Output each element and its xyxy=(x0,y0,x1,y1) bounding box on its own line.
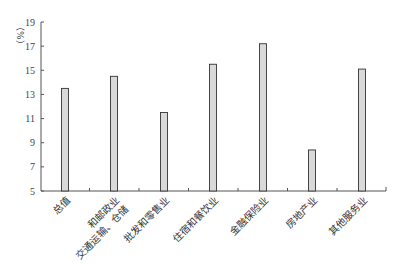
svg-text:其他服务业: 其他服务业 xyxy=(326,194,370,238)
y-tick-label: 13 xyxy=(25,89,35,100)
y-tick-label: 5 xyxy=(30,186,35,197)
bar-1 xyxy=(111,76,118,191)
svg-text:批发和零售业: 批发和零售业 xyxy=(121,194,172,245)
category-label: 金融保险业 xyxy=(227,194,271,238)
svg-text:住宿和餐饮业: 住宿和餐饮业 xyxy=(170,194,221,245)
bar-4 xyxy=(260,44,267,191)
bar-chart: 5791113151719 总值交通运输、仓储和邮政业批发和零售业住宿和餐饮业金… xyxy=(0,0,400,264)
y-unit-label: （%） xyxy=(15,22,25,49)
category-label: 房地产业 xyxy=(283,194,320,231)
y-tick-label: 7 xyxy=(30,161,35,172)
y-tick-label: 19 xyxy=(25,17,35,28)
category-label: 其他服务业 xyxy=(326,194,370,238)
category-label: 批发和零售业 xyxy=(121,194,172,245)
bar-5 xyxy=(309,150,316,191)
bar-0 xyxy=(62,88,69,191)
y-tick-label: 17 xyxy=(25,41,35,52)
bar-6 xyxy=(359,69,366,191)
svg-text:金融保险业: 金融保险业 xyxy=(227,194,271,238)
y-tick-label: 11 xyxy=(25,113,35,124)
y-axis: 5791113151719 xyxy=(25,17,44,197)
svg-text:总值: 总值 xyxy=(50,194,73,217)
bar-2 xyxy=(161,113,168,191)
category-label: 交通运输、仓储和邮政业 xyxy=(63,194,130,261)
category-labels: 总值交通运输、仓储和邮政业批发和零售业住宿和餐饮业金融保险业房地产业其他服务业 xyxy=(50,194,370,261)
y-tick-label: 9 xyxy=(30,137,35,148)
y-tick-label: 15 xyxy=(25,65,35,76)
svg-text:房地产业: 房地产业 xyxy=(283,194,320,231)
y-axis-unit: （%） xyxy=(15,22,25,49)
category-label: 总值 xyxy=(50,194,73,217)
category-label: 住宿和餐饮业 xyxy=(170,194,221,245)
bars xyxy=(62,44,366,191)
bar-3 xyxy=(210,64,217,191)
